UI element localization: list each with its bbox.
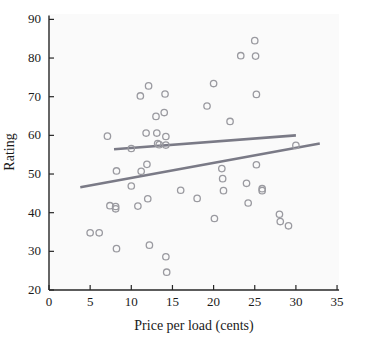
- y-tick-label: 60: [28, 127, 41, 142]
- y-tick-label: 40: [28, 205, 41, 220]
- y-axis-title: Rating: [2, 133, 17, 170]
- scatter-plot-figure: 051015202530352030405060708090 Price per…: [0, 0, 369, 344]
- y-tick-label: 90: [28, 11, 41, 26]
- y-tick-label: 80: [28, 50, 41, 65]
- x-tick-label: 30: [289, 294, 302, 309]
- x-tick-label: 25: [248, 294, 261, 309]
- x-tick-label: 15: [166, 294, 179, 309]
- y-tick-label: 30: [28, 243, 41, 258]
- x-tick-label: 20: [207, 294, 220, 309]
- x-tick-label: 35: [331, 294, 344, 309]
- y-tick-label: 20: [28, 282, 41, 297]
- y-tick-label: 70: [28, 89, 41, 104]
- x-tick-label: 0: [46, 294, 53, 309]
- chart-canvas: 051015202530352030405060708090 Price per…: [0, 0, 369, 344]
- y-tick-label: 50: [28, 166, 41, 181]
- plot-area-background: [49, 14, 339, 290]
- x-tick-label: 5: [87, 294, 94, 309]
- x-tick-label: 10: [125, 294, 138, 309]
- x-axis-title: Price per load (cents): [134, 318, 254, 334]
